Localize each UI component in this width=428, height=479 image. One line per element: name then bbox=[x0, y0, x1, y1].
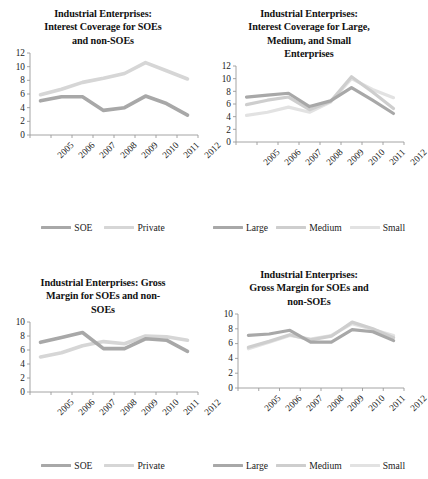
series-line-small bbox=[247, 79, 394, 116]
line-swatch-icon bbox=[41, 226, 71, 229]
legend-item-soe[interactable]: SOE bbox=[41, 222, 92, 233]
title-line: Industrial Enterprises: bbox=[12, 7, 194, 20]
chart-legend: SOEPrivate bbox=[0, 222, 206, 233]
title-line: and non-SOEs bbox=[12, 34, 194, 47]
line-swatch-icon bbox=[350, 226, 380, 229]
title-line: Enterprises bbox=[218, 47, 400, 60]
legend-item-private[interactable]: Private bbox=[104, 222, 164, 233]
legend-label: SOE bbox=[74, 460, 92, 471]
plot-area: 0246810122005200620072008200920102011201… bbox=[206, 60, 412, 178]
chart-title: Industrial Enterprises: Interest Coverag… bbox=[0, 0, 206, 47]
series-line-private bbox=[41, 62, 188, 94]
line-swatch-icon bbox=[104, 464, 134, 467]
chart-legend: LargeMediumSmall bbox=[206, 460, 412, 471]
plot-area: 0246810122005200620072008200920102011201… bbox=[0, 47, 206, 173]
plot-svg bbox=[206, 60, 412, 178]
chart-panel-interest-coverage-size: Industrial Enterprises: Interest Coverag… bbox=[206, 0, 412, 240]
legend-label: Large bbox=[246, 460, 268, 471]
line-swatch-icon bbox=[104, 226, 134, 229]
legend-item-large[interactable]: Large bbox=[213, 460, 268, 471]
chart-panel-interest-coverage-soe-nonsoe: Industrial Enterprises: Interest Coverag… bbox=[0, 0, 206, 240]
chart-title: Industrial Enterprises: Interest Coverag… bbox=[206, 0, 412, 60]
legend-label: Small bbox=[383, 460, 405, 471]
legend-label: Private bbox=[137, 460, 164, 471]
line-swatch-icon bbox=[350, 464, 380, 467]
line-swatch-icon bbox=[276, 464, 306, 467]
legend-label: Large bbox=[246, 222, 268, 233]
legend-item-medium[interactable]: Medium bbox=[276, 222, 342, 233]
chart-title: Industrial Enterprises: Gross Margin for… bbox=[0, 240, 206, 316]
title-line: Interest Coverage for SOEs bbox=[12, 20, 194, 33]
legend-item-soe[interactable]: SOE bbox=[41, 460, 92, 471]
title-line: Interest Coverage for Large, bbox=[218, 20, 400, 33]
chart-title: Industrial Enterprises: Gross Margin for… bbox=[206, 240, 412, 308]
title-line: non-SOEs bbox=[218, 295, 400, 308]
plot-area: 024681020052006200720082009201020112012 bbox=[206, 308, 412, 426]
plot-svg bbox=[0, 47, 206, 173]
legend-label: Small bbox=[383, 222, 405, 233]
plot-svg bbox=[206, 308, 412, 426]
legend-label: Medium bbox=[309, 460, 342, 471]
chart-legend: LargeMediumSmall bbox=[206, 222, 412, 233]
legend-item-private[interactable]: Private bbox=[104, 460, 164, 471]
title-line: Industrial Enterprises: Gross bbox=[12, 276, 194, 289]
legend-label: Medium bbox=[309, 222, 342, 233]
legend-item-medium[interactable]: Medium bbox=[276, 460, 342, 471]
line-swatch-icon bbox=[276, 226, 306, 229]
line-swatch-icon bbox=[213, 464, 243, 467]
plot-svg bbox=[0, 316, 206, 428]
legend-label: SOE bbox=[74, 222, 92, 233]
legend-item-large[interactable]: Large bbox=[213, 222, 268, 233]
title-line: Medium, and Small bbox=[218, 34, 400, 47]
title-line: SOEs bbox=[12, 303, 194, 316]
title-line: Industrial Enterprises: bbox=[218, 7, 400, 20]
legend-item-small[interactable]: Small bbox=[350, 460, 405, 471]
line-swatch-icon bbox=[41, 464, 71, 467]
plot-area: 024681020052006200720082009201020112012 bbox=[0, 316, 206, 428]
title-line: Margin for SOEs and non- bbox=[12, 289, 194, 302]
line-swatch-icon bbox=[213, 226, 243, 229]
legend-label: Private bbox=[137, 222, 164, 233]
title-line: Gross Margin for SOEs and bbox=[218, 281, 400, 294]
chart-panel-gross-margin-size: Industrial Enterprises: Gross Margin for… bbox=[206, 240, 412, 479]
series-line-soe bbox=[41, 96, 188, 115]
chart-legend: SOEPrivate bbox=[0, 460, 206, 471]
title-line: Industrial Enterprises: bbox=[218, 268, 400, 281]
legend-item-small[interactable]: Small bbox=[350, 222, 405, 233]
chart-panel-gross-margin-soe-nonsoe: Industrial Enterprises: Gross Margin for… bbox=[0, 240, 206, 479]
